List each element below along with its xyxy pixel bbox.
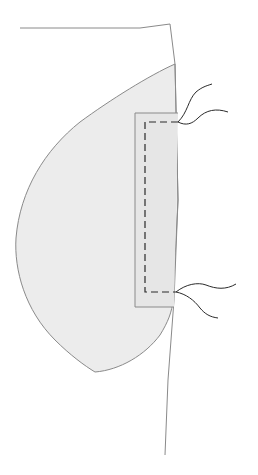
pocket-facing: [135, 113, 178, 307]
sewing-diagram: [0, 0, 258, 475]
